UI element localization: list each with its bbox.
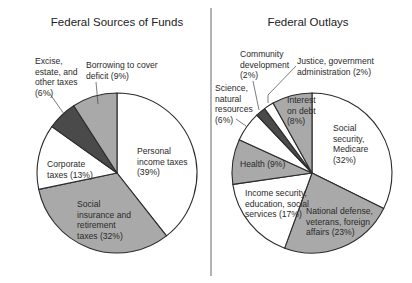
label-borrowing: Borrowing to cover deficit (9%) (86, 60, 160, 81)
pie-outlays: Federal Outlays Social security, Medicar… (215, 16, 392, 253)
chart-title-sources: Federal Sources of Funds (51, 16, 184, 28)
chart-title-outlays: Federal Outlays (267, 16, 348, 28)
pie-sources-of-funds: Federal Sources of Funds Personal income… (35, 16, 197, 253)
federal-budget-pie-charts: Federal Sources of Funds Personal income… (0, 0, 412, 283)
label-excise: Excise, estate, and other taxes (6%) (35, 56, 80, 98)
label-community: Community development (2%) (240, 49, 292, 80)
label-justice: Justice, government administration (2%) (297, 56, 376, 77)
label-income-security: Income security, education, social servi… (245, 188, 311, 219)
leader-science (236, 119, 246, 126)
label-health: Health (9%) (240, 159, 286, 169)
label-corporate: Corporate taxes (13%) (47, 159, 93, 180)
label-science: Science, natural resources (6%) (215, 83, 255, 125)
